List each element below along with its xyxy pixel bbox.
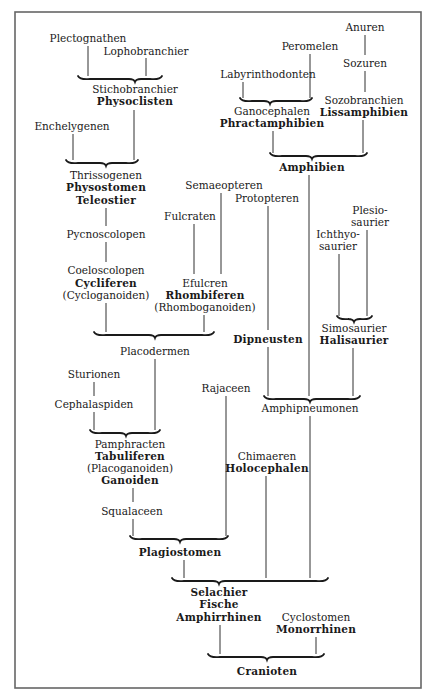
node-ichthyosaurier-2: saurier xyxy=(319,240,357,252)
node-rhombiferen: Rhombiferen xyxy=(165,289,244,301)
node-amphipneumonen: Amphipneumonen xyxy=(262,402,359,414)
node-sturionen: Sturionen xyxy=(68,368,121,380)
node-ichthyosaurier-1: Ichthyo- xyxy=(316,228,360,240)
node-chimaeren: Chimaeren xyxy=(238,450,297,462)
node-cephalaspiden: Cephalaspiden xyxy=(55,398,134,410)
node-pycnoscolopen: Pycnoscolopen xyxy=(67,228,146,240)
node-semaeopteren: Semaeopteren xyxy=(185,179,262,191)
brace-placodermen xyxy=(94,332,214,338)
node-cranioten: Cranioten xyxy=(237,665,297,677)
node-cyclostomen: Cyclostomen xyxy=(282,611,350,623)
node-simosaurier: Simosaurier xyxy=(322,322,387,334)
node-ganoiden: Ganoiden xyxy=(101,474,159,486)
node-plectognathen: Plectognathen xyxy=(50,32,127,44)
node-placodermen: Placodermen xyxy=(120,345,190,357)
node-cycliferen: Cycliferen xyxy=(75,277,137,289)
node-sozuren: Sozuren xyxy=(343,57,387,69)
node-coeloscolopen: Coeloscolopen xyxy=(67,264,144,276)
brace-plagiostomen xyxy=(130,536,228,542)
node-lophobranchier: Lophobranchier xyxy=(103,45,188,57)
node-efulcren: Efulcren xyxy=(182,277,228,289)
node-monorrhinen: Monorrhinen xyxy=(276,623,356,635)
brace-selachier xyxy=(172,578,328,584)
node-peromelen: Peromelen xyxy=(282,40,339,52)
node-rajaceen: Rajaceen xyxy=(202,382,251,394)
node-anuren: Anuren xyxy=(345,21,384,33)
node-fulcraten: Fulcraten xyxy=(164,210,216,222)
brace-pamphracten xyxy=(90,430,160,436)
node-dipneusten: Dipneusten xyxy=(233,333,302,345)
node-amphirrhinen: Amphirrhinen xyxy=(176,611,261,623)
node-enchelygenen: Enchelygenen xyxy=(34,120,109,132)
node-teleostier: Teleostier xyxy=(76,194,136,206)
brace-thrissogenen xyxy=(66,160,138,166)
node-amphibien: Amphibien xyxy=(279,161,345,173)
brace-stichobranchier xyxy=(78,76,162,82)
node-ganocephalen: Ganocephalen xyxy=(234,105,310,117)
node-sozobranchien: Sozobranchien xyxy=(324,94,403,106)
node-placoganoiden: (Placoganoiden) xyxy=(87,462,173,474)
node-protopteren: Protopteren xyxy=(235,192,299,204)
node-thrissogenen: Thrissogenen xyxy=(70,169,142,181)
node-selachier: Selachier xyxy=(190,586,247,598)
node-phractamphibien: Phractamphibien xyxy=(220,117,325,129)
brace-ganocephalen xyxy=(240,98,312,104)
brace-cranioten xyxy=(208,654,324,660)
node-pamphracten: Pamphracten xyxy=(95,438,166,450)
node-plesiosaurier-1: Plesio- xyxy=(352,204,387,216)
phylogeny-diagram: Plectognathen Lophobranchier Stichobranc… xyxy=(0,0,428,696)
node-cycloganoiden: (Cycloganoiden) xyxy=(63,289,150,301)
node-lissamphibien: Lissamphibien xyxy=(320,106,408,118)
node-holocephalen: Holocephalen xyxy=(225,462,308,474)
node-physostomen: Physostomen xyxy=(66,181,146,193)
brace-amphibien xyxy=(270,153,367,159)
node-fische: Fische xyxy=(199,598,238,610)
node-plesiosaurier-2: saurier xyxy=(351,216,389,228)
node-squalaceen: Squalaceen xyxy=(101,505,163,517)
node-halisaurier: Halisaurier xyxy=(320,334,389,346)
node-tabuliferen: Tabuliferen xyxy=(95,450,165,462)
node-rhomboganoiden: (Rhomboganoiden) xyxy=(154,301,255,313)
node-physoclisten: Physoclisten xyxy=(97,95,173,107)
node-labyrinthodonten: Labyrinthodonten xyxy=(220,68,315,80)
node-plagiostomen: Plagiostomen xyxy=(139,546,222,558)
node-stichobranchier: Stichobranchier xyxy=(92,83,178,95)
